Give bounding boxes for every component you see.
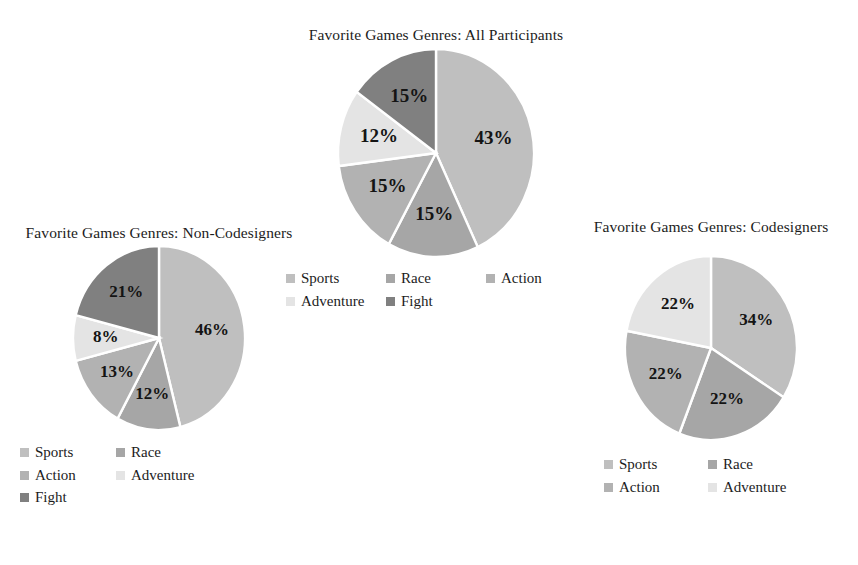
- chart-title-codesigners: Favorite Games Genres: Codesigners: [580, 216, 842, 237]
- legend-label-race: Race: [401, 267, 431, 290]
- slice-label-race: 22%: [710, 390, 744, 409]
- legend-swatch-sports-icon: [20, 448, 29, 457]
- pie-canvas-non-codesigners: 46%12%13%8%21%: [66, 243, 252, 433]
- legend-item-fight[interactable]: Fight: [20, 486, 116, 509]
- pie-chart-all-participants: Favorite Games Genres: All Participants …: [286, 24, 586, 312]
- legend-label-action: Action: [501, 267, 542, 290]
- legend-label-adventure: Adventure: [301, 290, 364, 313]
- legend-label-fight: Fight: [401, 290, 433, 313]
- legend-label-action: Action: [35, 464, 76, 487]
- legend-item-race[interactable]: Race: [116, 441, 212, 464]
- slice-label-action: 13%: [100, 362, 134, 381]
- pie-canvas-codesigners: 34%22%22%22%: [618, 253, 804, 443]
- legend-swatch-sports-icon: [604, 460, 613, 469]
- legend-label-adventure: Adventure: [131, 464, 194, 487]
- legend-codesigners: SportsRaceActionAdventure: [604, 453, 818, 498]
- legend-swatch-adventure-icon: [116, 471, 125, 480]
- legend-swatch-fight-icon: [20, 493, 29, 502]
- pie-chart-non-codesigners: Favorite Games Genres: Non-Codesigners 4…: [20, 222, 298, 509]
- legend-item-action[interactable]: Action: [604, 476, 708, 499]
- slice-label-adventure: 22%: [661, 295, 695, 314]
- legend-label-adventure: Adventure: [723, 476, 786, 499]
- legend-all-participants: SportsRaceActionAdventureFight: [286, 267, 586, 312]
- legend-label-race: Race: [723, 453, 753, 476]
- legend-item-sports[interactable]: Sports: [604, 453, 708, 476]
- legend-label-sports: Sports: [35, 441, 73, 464]
- pie-svg-non-codesigners: 46%12%13%8%21%: [66, 243, 252, 433]
- legend-label-sports: Sports: [619, 453, 657, 476]
- legend-item-fight[interactable]: Fight: [386, 290, 486, 313]
- slice-label-action: 15%: [368, 176, 406, 197]
- slice-label-action: 22%: [649, 364, 683, 383]
- legend-swatch-fight-icon: [386, 297, 395, 306]
- legend-item-sports[interactable]: Sports: [20, 441, 116, 464]
- legend-item-sports[interactable]: Sports: [286, 267, 386, 290]
- slice-label-sports: 43%: [474, 127, 512, 148]
- pie-svg-all-participants: 43%15%15%12%15%: [331, 45, 541, 261]
- legend-label-action: Action: [619, 476, 660, 499]
- legend-label-race: Race: [131, 441, 161, 464]
- slice-label-adventure: 8%: [93, 327, 119, 346]
- legend-swatch-race-icon: [116, 448, 125, 457]
- slice-label-sports: 34%: [739, 311, 773, 330]
- legend-item-adventure[interactable]: Adventure: [286, 290, 386, 313]
- pie-chart-codesigners: Favorite Games Genres: Codesigners 34%22…: [580, 216, 842, 498]
- slice-label-fight: 15%: [390, 85, 428, 106]
- legend-swatch-action-icon: [604, 483, 613, 492]
- legend-swatch-race-icon: [708, 460, 717, 469]
- legend-item-action[interactable]: Action: [20, 464, 116, 487]
- legend-swatch-action-icon: [20, 471, 29, 480]
- legend-item-adventure[interactable]: Adventure: [708, 476, 812, 499]
- legend-swatch-action-icon: [486, 274, 495, 283]
- pie-svg-codesigners: 34%22%22%22%: [618, 253, 804, 443]
- legend-swatch-adventure-icon: [708, 483, 717, 492]
- slice-label-sports: 46%: [195, 320, 229, 339]
- legend-label-sports: Sports: [301, 267, 339, 290]
- slice-label-fight: 21%: [109, 282, 143, 301]
- legend-label-fight: Fight: [35, 486, 67, 509]
- legend-item-race[interactable]: Race: [386, 267, 486, 290]
- slice-label-race: 15%: [415, 203, 453, 224]
- slice-label-race: 12%: [135, 384, 169, 403]
- legend-swatch-race-icon: [386, 274, 395, 283]
- legend-item-adventure[interactable]: Adventure: [116, 464, 212, 487]
- slice-label-adventure: 12%: [360, 125, 398, 146]
- legend-item-action[interactable]: Action: [486, 267, 586, 290]
- pie-canvas-all-participants: 43%15%15%12%15%: [331, 45, 541, 261]
- legend-item-race[interactable]: Race: [708, 453, 812, 476]
- chart-title-all-participants: Favorite Games Genres: All Participants: [286, 24, 586, 45]
- chart-title-non-codesigners: Favorite Games Genres: Non-Codesigners: [20, 222, 298, 243]
- legend-non-codesigners: SportsRaceActionAdventureFight: [20, 441, 298, 509]
